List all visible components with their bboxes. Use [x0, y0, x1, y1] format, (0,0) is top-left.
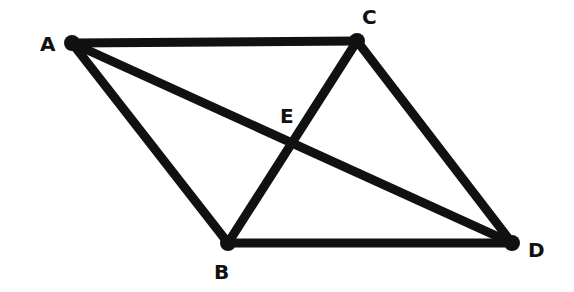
- vertex-a: [64, 35, 80, 51]
- vertex-c: [349, 33, 365, 49]
- parallelogram-diagram: A C B D E: [0, 0, 574, 292]
- label-e: E: [280, 104, 294, 128]
- segment-ab: [72, 43, 228, 243]
- segments: [72, 41, 512, 243]
- segment-ac: [72, 41, 357, 43]
- label-b: B: [214, 260, 229, 284]
- vertex-d: [504, 235, 520, 251]
- label-a: A: [40, 32, 56, 56]
- label-d: D: [528, 238, 545, 262]
- label-c: C: [362, 5, 377, 29]
- segment-cb: [228, 41, 357, 243]
- vertex-b: [220, 235, 236, 251]
